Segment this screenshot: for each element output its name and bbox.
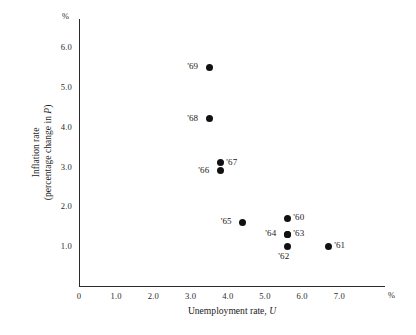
x-tick-label: 6.0: [289, 291, 315, 301]
y-axis-title-line1: Inflation rate: [30, 52, 42, 252]
y-tick-label: 1.0: [46, 241, 72, 251]
x-axis-title-variable: U: [269, 305, 276, 316]
x-tick-label: 3.0: [178, 291, 204, 301]
y-axis-title-line2-post: ): [42, 105, 53, 108]
data-point-label: '64: [265, 228, 276, 238]
y-tick-label: 6.0: [46, 42, 72, 52]
data-point-label: '60: [293, 212, 304, 222]
data-point: [284, 215, 291, 222]
x-tick-label: 1.0: [103, 291, 129, 301]
data-point-label: '62: [278, 251, 289, 261]
data-point-label: '66: [198, 165, 209, 175]
x-tick-label: 7.0: [326, 291, 352, 301]
phillips-curve-scatter-chart: % % Unemployment rate, U Inflation rate …: [0, 0, 416, 335]
data-point: [217, 159, 224, 166]
data-point: [206, 115, 213, 122]
data-point-label: '61: [334, 240, 345, 250]
y-tick-label: 5.0: [46, 82, 72, 92]
y-axis-percent-symbol: %: [62, 12, 69, 21]
data-point-label: '68: [187, 113, 198, 123]
y-axis-title-variable: P: [42, 108, 53, 114]
x-axis-line: [79, 286, 385, 287]
data-point: [284, 231, 291, 238]
x-axis-percent-symbol: %: [388, 291, 395, 300]
x-axis-title-text: Unemployment rate,: [188, 305, 269, 316]
data-point-label: '67: [226, 157, 237, 167]
x-axis-title: Unemployment rate, U: [79, 305, 385, 316]
x-tick-label: 0: [66, 291, 92, 301]
data-point: [239, 219, 246, 226]
y-tick-label: 2.0: [46, 201, 72, 211]
data-point: [206, 64, 213, 71]
y-axis-line: [79, 19, 80, 287]
y-tick-label: 3.0: [46, 162, 72, 172]
data-point-label: '69: [187, 61, 198, 71]
x-tick-label: 4.0: [215, 291, 241, 301]
data-point: [217, 167, 224, 174]
y-tick-label: 4.0: [46, 122, 72, 132]
data-point: [284, 243, 291, 250]
x-tick-label: 5.0: [252, 291, 278, 301]
x-tick-label: 2.0: [140, 291, 166, 301]
data-point: [325, 243, 332, 250]
data-point-label: '63: [293, 228, 304, 238]
data-point-label: '65: [221, 216, 232, 226]
